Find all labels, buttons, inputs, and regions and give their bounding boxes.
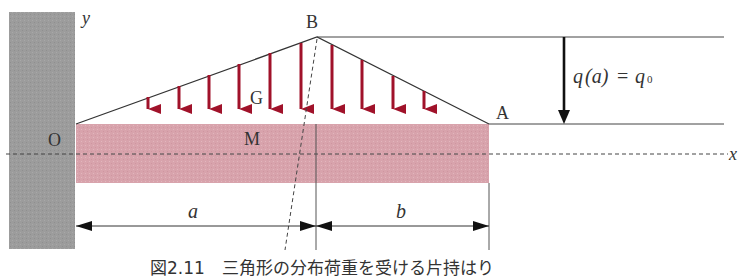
- max-load-arrow: [558, 37, 570, 124]
- centroid-label: G: [250, 88, 263, 108]
- svg-text:q: q: [635, 65, 645, 88]
- svg-text:=: =: [617, 65, 628, 87]
- svg-text:0: 0: [647, 73, 653, 85]
- origin-label: O: [48, 130, 61, 150]
- distributed-load-arrows: [148, 43, 424, 109]
- fixed-wall: [9, 12, 75, 249]
- point-m-label: M: [244, 129, 260, 149]
- y-axis-label: y: [80, 8, 90, 28]
- dimension-b-label: b: [396, 200, 406, 222]
- x-axis-label: x: [728, 144, 737, 164]
- dimension-a: [76, 221, 316, 231]
- figure-caption: 図2.11 三角形の分布荷重を受ける片持はり: [150, 254, 650, 274]
- dimension-b: [316, 221, 489, 231]
- load-distribution-outline: [76, 37, 489, 124]
- svg-text:q: q: [573, 65, 583, 88]
- tip-label: A: [496, 103, 509, 123]
- apex-label: B: [306, 12, 318, 32]
- svg-text:(a): (a): [585, 65, 609, 88]
- dimension-a-label: a: [188, 200, 198, 222]
- max-load-label: q (a) = q 0: [573, 65, 653, 88]
